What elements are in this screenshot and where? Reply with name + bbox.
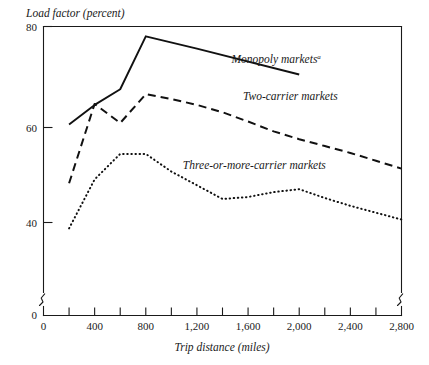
y-tick-label-0: 0	[32, 309, 38, 321]
y-tick-label-80: 80	[26, 21, 38, 33]
y-tick-label-40: 40	[26, 217, 38, 229]
y-tick-label-60: 60	[26, 122, 38, 134]
x-axis-title: Trip distance (miles)	[174, 341, 269, 354]
right-axis-break-icon	[398, 294, 403, 306]
x-tick-label-0: 0	[41, 320, 47, 332]
y-axis-break-icon	[40, 294, 45, 306]
load-factor-line-chart: Load factor (percent) 80	[0, 0, 429, 365]
x-tick-label-1600: 1,600	[236, 320, 261, 332]
x-tick-label-1200: 1,200	[185, 320, 210, 332]
y-axis-title: Load factor (percent)	[25, 7, 125, 20]
series-label-three-or-more-carrier-markets: Three-or-more-carrier markets	[183, 159, 326, 171]
x-tick-label-2000: 2,000	[287, 320, 312, 332]
monopoly-footnote-marker: a	[317, 53, 321, 61]
y-ticks	[44, 27, 53, 223]
x-tick-label-800: 800	[138, 320, 155, 332]
x-tick-label-2400: 2,400	[338, 320, 363, 332]
series-label-monopoly-markets: Monopoly marketsa	[230, 53, 321, 66]
chart-svg: Load factor (percent) 80	[0, 0, 429, 365]
x-tick-label-2800: 2,800	[389, 320, 414, 332]
x-tick-label-400: 400	[86, 320, 103, 332]
series-group	[69, 36, 401, 228]
axes	[40, 27, 403, 316]
x-ticks	[69, 308, 376, 316]
series-label-two-carrier-markets: Two-carrier markets	[243, 90, 338, 102]
